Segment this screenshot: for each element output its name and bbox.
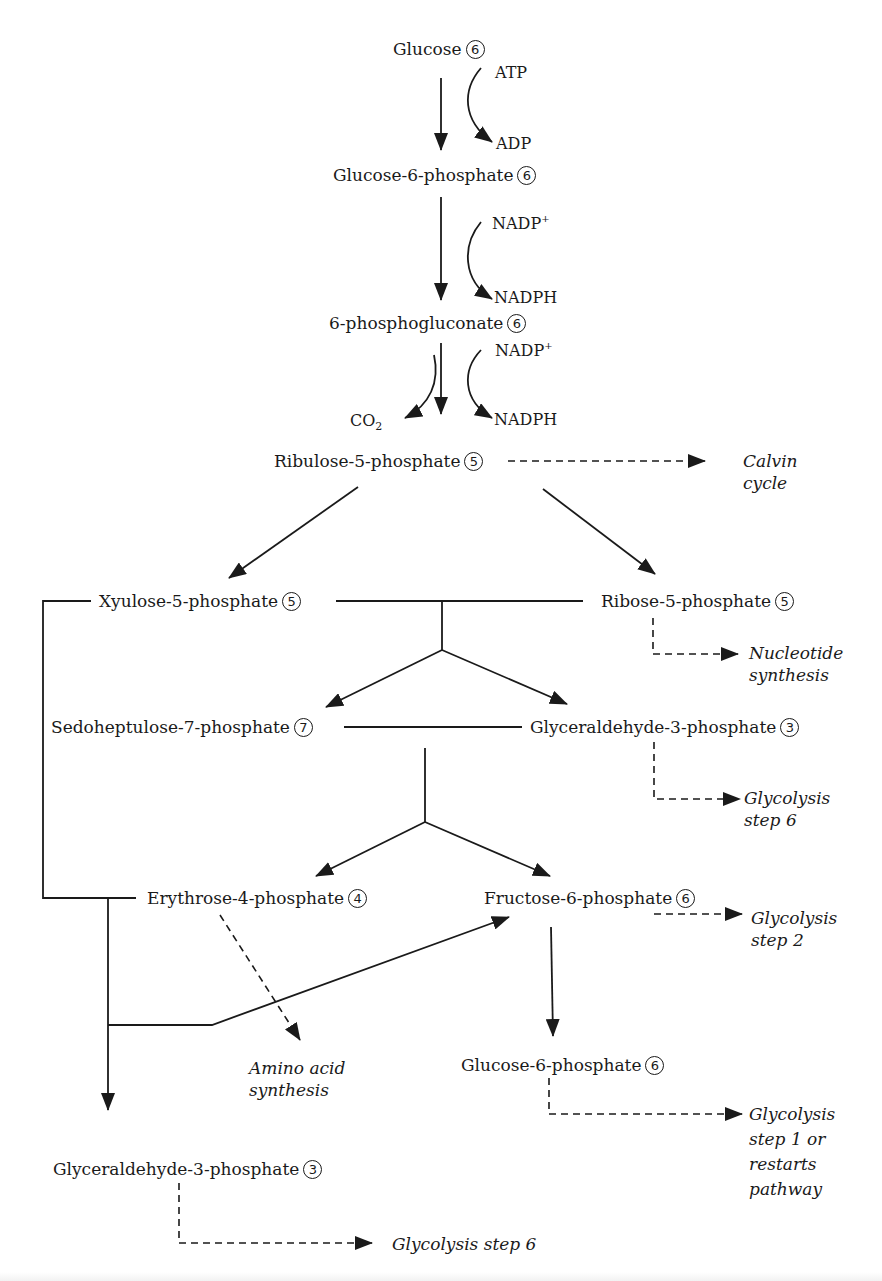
destination-line: pathway xyxy=(749,1177,835,1202)
carbon-count-badge: 5 xyxy=(775,592,794,611)
node-fructose-6-phosphate: Fructose-6-phosphate6 xyxy=(484,888,695,908)
cofactor-nadp-plus-2: NADP+ xyxy=(495,341,553,361)
node-label: Glucose xyxy=(393,39,462,59)
arrow-f6p-to-g6p xyxy=(551,927,553,1036)
destination-line: Glycolysis xyxy=(751,907,837,929)
destination-line: Nucleotide xyxy=(749,642,843,664)
pathway-connectors xyxy=(0,0,882,1281)
carbon-count-badge: 6 xyxy=(676,889,695,908)
charge-superscript: + xyxy=(544,340,552,351)
dashed-to-glycolysis1 xyxy=(549,1078,742,1114)
node-xylulose-5-phosphate: Xyulose-5-phosphate5 xyxy=(99,591,301,611)
cropped-caption-edge xyxy=(0,1272,882,1281)
destination-line: Amino acid xyxy=(249,1057,345,1079)
node-glyceraldehyde-3-phosphate-mid: Glyceraldehyde-3-phosphate3 xyxy=(530,717,799,737)
arrow-to-g3p-mid xyxy=(442,650,567,704)
dashed-to-amino xyxy=(220,915,300,1040)
destination-glycolysis-step-6-mid: Glycolysis step 6 xyxy=(744,787,830,831)
arrow-ru5p-to-xu5p xyxy=(229,487,358,578)
carbon-count-badge: 3 xyxy=(780,718,799,737)
arrow-to-e4p xyxy=(316,822,425,876)
cofactor-text: CO xyxy=(350,411,375,430)
carbon-count-badge: 3 xyxy=(303,1160,322,1179)
node-label: 6-phosphogluconate xyxy=(329,313,503,333)
node-sedoheptulose-7-phosphate: Sedoheptulose-7-phosphate7 xyxy=(51,717,313,737)
node-ribose-5-phosphate: Ribose-5-phosphate5 xyxy=(601,591,794,611)
destination-line: step 6 xyxy=(744,809,830,831)
destination-amino-acid-synthesis: Amino acid synthesis xyxy=(249,1057,345,1101)
carbon-count-badge: 6 xyxy=(517,166,536,185)
destination-nucleotide-synthesis: Nucleotide synthesis xyxy=(749,642,843,686)
cofactor-nadph-1: NADPH xyxy=(494,288,557,308)
carbon-count-badge: 7 xyxy=(294,718,313,737)
cofactor-nadp-plus-1: NADP+ xyxy=(492,214,550,234)
carbon-count-badge: 6 xyxy=(466,40,485,59)
destination-line: restarts xyxy=(749,1152,835,1177)
cofactor-co2: CO2 xyxy=(350,411,382,431)
node-glucose-6-phosphate-top: Glucose-6-phosphate6 xyxy=(333,165,536,185)
destination-glycolysis-step-6-bottom: Glycolysis step 6 xyxy=(392,1233,536,1255)
cofactor-adp: ADP xyxy=(496,134,531,154)
arrow-nadp-to-nadph-1 xyxy=(468,222,492,299)
charge-superscript: + xyxy=(541,213,549,224)
carbon-count-badge: 5 xyxy=(282,592,301,611)
pentose-phosphate-pathway-diagram: Glucose6 Glucose-6-phosphate6 6-phosphog… xyxy=(0,0,882,1281)
node-label: Ribulose-5-phosphate xyxy=(274,451,460,471)
carbon-count-badge: 6 xyxy=(645,1056,664,1075)
destination-calvin-cycle: Calvin cycle xyxy=(743,450,798,494)
carbon-count-badge: 5 xyxy=(464,452,483,471)
node-6-phosphogluconate: 6-phosphogluconate6 xyxy=(329,313,526,333)
carbon-count-badge: 4 xyxy=(348,889,367,908)
node-label: Glyceraldehyde-3-phosphate xyxy=(530,717,776,737)
destination-line: Glycolysis xyxy=(744,787,830,809)
node-label: Fructose-6-phosphate xyxy=(484,888,672,908)
node-label: Glucose-6-phosphate xyxy=(461,1055,641,1075)
arrow-nadp-to-nadph-2 xyxy=(468,350,492,418)
destination-line: step 1 or xyxy=(749,1127,835,1152)
cofactor-nadph-2: NADPH xyxy=(494,410,557,430)
cofactor-atp: ATP xyxy=(495,63,527,83)
node-glyceraldehyde-3-phosphate-bottom: Glyceraldehyde-3-phosphate3 xyxy=(53,1159,322,1179)
dashed-to-nucleotide xyxy=(653,618,738,654)
destination-line: cycle xyxy=(743,472,798,494)
destination-line: Calvin xyxy=(743,450,798,472)
node-glucose-6-phosphate-bottom: Glucose-6-phosphate6 xyxy=(461,1055,664,1075)
destination-line: synthesis xyxy=(249,1079,345,1101)
destination-line: step 2 xyxy=(751,929,837,951)
subscript: 2 xyxy=(375,420,382,433)
node-label: Xyulose-5-phosphate xyxy=(99,591,278,611)
cofactor-text: NADP xyxy=(495,341,544,360)
dashed-to-glycolysis6-bottom xyxy=(179,1183,372,1243)
node-erythrose-4-phosphate: Erythrose-4-phosphate4 xyxy=(147,888,367,908)
node-label: Glucose-6-phosphate xyxy=(333,165,513,185)
destination-line: Glycolysis xyxy=(749,1102,835,1127)
dashed-to-glycolysis6-mid xyxy=(654,742,740,799)
arrow-atp-to-adp xyxy=(468,68,492,142)
arrow-to-s7p xyxy=(326,650,442,707)
line-xu5p-bracket xyxy=(43,601,136,898)
destination-glycolysis-step-1-or-restart: Glycolysis step 1 or restarts pathway xyxy=(749,1102,835,1202)
arrow-to-f6p xyxy=(425,822,550,876)
carbon-count-badge: 6 xyxy=(507,314,526,333)
node-label: Erythrose-4-phosphate xyxy=(147,888,344,908)
node-glucose: Glucose6 xyxy=(393,39,485,59)
node-ribulose-5-phosphate: Ribulose-5-phosphate5 xyxy=(274,451,483,471)
destination-line: synthesis xyxy=(749,664,843,686)
destination-glycolysis-step-2: Glycolysis step 2 xyxy=(751,907,837,951)
node-label: Glyceraldehyde-3-phosphate xyxy=(53,1159,299,1179)
arrow-ru5p-to-r5p xyxy=(543,489,655,574)
arrow-to-f6p-from-bracket xyxy=(108,917,509,1025)
node-label: Ribose-5-phosphate xyxy=(601,591,771,611)
arrow-co2-release xyxy=(405,355,436,418)
node-label: Sedoheptulose-7-phosphate xyxy=(51,717,290,737)
cofactor-text: NADP xyxy=(492,214,541,233)
